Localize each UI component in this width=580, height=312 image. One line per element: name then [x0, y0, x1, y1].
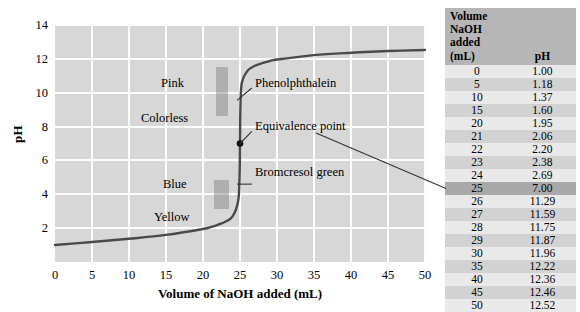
cell-volume: 29 [445, 234, 509, 247]
x-axis-tick-label: 40 [345, 268, 358, 283]
x-axis-tick-label: 5 [89, 268, 95, 283]
table-row: 2811.75 [445, 221, 576, 234]
y-axis-tick-label: 12 [36, 51, 49, 66]
cell-ph: 2.20 [509, 143, 576, 156]
x-axis-tick-label: 30 [271, 268, 284, 283]
x-axis-tick-label: 35 [308, 268, 321, 283]
titration-data-table-panel: Volume NaOH added (mL) pH 01.0051.18101.… [445, 8, 576, 312]
table-row-equivalence: 257.00 [445, 182, 576, 195]
cell-volume: 50 [445, 299, 509, 312]
x-axis-tick-label: 0 [52, 268, 58, 283]
y-axis-tick-label: 4 [42, 187, 48, 202]
cell-ph: 1.00 [509, 65, 576, 78]
cell-ph: 12.46 [509, 286, 576, 299]
table-body: 01.0051.18101.37151.60201.95212.06222.20… [445, 65, 576, 312]
cell-volume: 21 [445, 130, 509, 143]
x-axis-tick-label: 25 [234, 268, 247, 283]
phenolphthalein-leader-line [237, 88, 252, 100]
column-header-volume: Volume NaOH added (mL) [445, 8, 509, 65]
column-header-volume-line2: added (mL) [450, 36, 480, 61]
cell-ph: 1.18 [509, 78, 576, 91]
cell-volume: 27 [445, 208, 509, 221]
table-row: 4512.46 [445, 286, 576, 299]
titration-curve [55, 25, 425, 262]
cell-ph: 11.29 [509, 195, 576, 208]
x-axis-tick-label: 10 [123, 268, 136, 283]
table-header-row: Volume NaOH added (mL) pH [445, 8, 576, 65]
cell-volume: 26 [445, 195, 509, 208]
annotation-phenolphthalein: Phenolphthalein [255, 76, 336, 91]
x-axis-tick-label: 15 [160, 268, 173, 283]
cell-ph: 7.00 [509, 182, 576, 195]
annotation-pink: Pink [161, 76, 184, 91]
cell-volume: 24 [445, 169, 509, 182]
x-axis-title: Volume of NaOH added (mL) [55, 286, 425, 302]
y-axis-title: pH [10, 125, 26, 143]
table-row: 01.00 [445, 65, 576, 78]
table-header: Volume NaOH added (mL) pH [445, 8, 576, 65]
cell-volume: 5 [445, 78, 509, 91]
x-axis-tick-label: 20 [197, 268, 210, 283]
table-row: 222.20 [445, 143, 576, 156]
cell-volume: 25 [445, 182, 509, 195]
cell-volume: 23 [445, 156, 509, 169]
annotation-equivalence-point: Equivalence point [255, 119, 346, 134]
cell-volume: 45 [445, 286, 509, 299]
annotation-blue: Blue [163, 177, 187, 192]
cell-ph: 2.69 [509, 169, 576, 182]
titration-data-table: Volume NaOH added (mL) pH 01.0051.18101.… [445, 8, 576, 312]
table-row: 242.69 [445, 169, 576, 182]
y-axis-tick-label: 2 [42, 221, 48, 236]
cell-volume: 15 [445, 104, 509, 117]
cell-ph: 11.87 [509, 234, 576, 247]
column-header-volume-line1: Volume NaOH [450, 10, 487, 35]
table-row: 232.38 [445, 156, 576, 169]
cell-ph: 12.52 [509, 299, 576, 312]
y-axis-tick-label: 6 [42, 153, 48, 168]
y-axis-tick-label: 10 [36, 85, 49, 100]
cell-ph: 11.59 [509, 208, 576, 221]
cell-volume: 28 [445, 221, 509, 234]
cell-ph: 12.36 [509, 273, 576, 286]
table-row: 2911.87 [445, 234, 576, 247]
table-row: 2611.29 [445, 195, 576, 208]
table-row: 101.37 [445, 91, 576, 104]
annotation-colorless: Colorless [141, 111, 188, 126]
titration-chart: pH Volume of NaOH added (mL) 1412108642 … [0, 0, 440, 311]
column-header-ph: pH [509, 8, 576, 65]
table-row: 3512.22 [445, 260, 576, 273]
cell-ph: 1.95 [509, 117, 576, 130]
table-row: 2711.59 [445, 208, 576, 221]
table-row: 201.95 [445, 117, 576, 130]
table-row: 5012.52 [445, 299, 576, 312]
x-axis-tick-label: 45 [382, 268, 395, 283]
cell-volume: 30 [445, 247, 509, 260]
cell-ph: 2.38 [509, 156, 576, 169]
cell-ph: 11.75 [509, 221, 576, 234]
cell-ph: 1.60 [509, 104, 576, 117]
cell-ph: 12.22 [509, 260, 576, 273]
annotation-bromcresol-green: Bromcresol green [255, 165, 344, 180]
cell-volume: 0 [445, 65, 509, 78]
y-axis-tick-label: 14 [36, 18, 49, 33]
plot-area: 1412108642 05101520253035404550 Pink Col… [55, 25, 425, 262]
cell-volume: 10 [445, 91, 509, 104]
cell-volume: 40 [445, 273, 509, 286]
cell-volume: 22 [445, 143, 509, 156]
equivalence-leader-line [240, 131, 252, 143]
table-row: 212.06 [445, 130, 576, 143]
annotation-yellow: Yellow [154, 210, 190, 225]
x-axis-tick-label: 50 [419, 268, 432, 283]
table-row: 4012.36 [445, 273, 576, 286]
cell-ph: 1.37 [509, 91, 576, 104]
cell-volume: 20 [445, 117, 509, 130]
table-row: 151.60 [445, 104, 576, 117]
curve-path [55, 50, 425, 245]
table-row: 3011.96 [445, 247, 576, 260]
y-axis-tick-label: 8 [42, 119, 48, 134]
cell-ph: 11.96 [509, 247, 576, 260]
table-row: 51.18 [445, 78, 576, 91]
cell-ph: 2.06 [509, 130, 576, 143]
cell-volume: 35 [445, 260, 509, 273]
